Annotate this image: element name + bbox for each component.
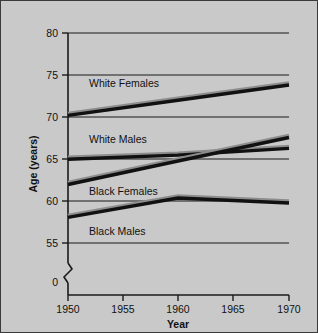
xtick-label-1965: 1965 bbox=[221, 303, 245, 315]
ytick-label-75: 75 bbox=[46, 69, 58, 81]
xtick-label-1970: 1970 bbox=[277, 303, 301, 315]
xtick-label-1955: 1955 bbox=[111, 303, 135, 315]
life-expectancy-line-chart: 80 75 70 65 60 55 0 1950 1955 1960 1965 … bbox=[1, 1, 318, 333]
series-white-females-line bbox=[68, 85, 289, 115]
series-label-white-females: White Females bbox=[89, 77, 159, 89]
series-label-white-males: White Males bbox=[89, 133, 147, 145]
ytick-label-70: 70 bbox=[46, 111, 58, 123]
y-axis-break-icon bbox=[64, 263, 72, 283]
ytick-label-60: 60 bbox=[46, 195, 58, 207]
x-axis bbox=[68, 295, 289, 301]
xtick-label-1960: 1960 bbox=[166, 303, 190, 315]
x-axis-title: Year bbox=[167, 318, 189, 330]
ytick-label-zero: 0 bbox=[52, 276, 58, 288]
y-axis-title: Age (years) bbox=[27, 135, 39, 192]
series-label-black-males: Black Males bbox=[89, 225, 146, 237]
xtick-label-1950: 1950 bbox=[56, 303, 80, 315]
ytick-label-55: 55 bbox=[46, 237, 58, 249]
ytick-label-65: 65 bbox=[46, 153, 58, 165]
chart-figure: 80 75 70 65 60 55 0 1950 1955 1960 1965 … bbox=[0, 0, 318, 333]
ytick-label-80: 80 bbox=[46, 27, 58, 39]
y-axis bbox=[62, 33, 72, 295]
y-tick-labels: 80 75 70 65 60 55 0 bbox=[46, 27, 58, 288]
series-label-black-females: Black Females bbox=[89, 185, 158, 197]
series-group bbox=[68, 83, 289, 217]
x-tick-labels: 1950 1955 1960 1965 1970 bbox=[56, 303, 301, 315]
